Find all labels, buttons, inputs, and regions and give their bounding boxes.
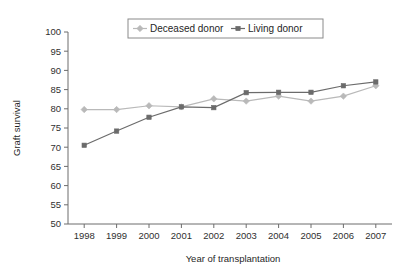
y-tick-label: 90 — [50, 65, 61, 76]
x-tick-label: 2004 — [268, 230, 289, 241]
x-axis-title: Year of transplantation — [186, 253, 281, 264]
legend-label-0: Deceased donor — [150, 23, 224, 34]
y-tick-label: 70 — [50, 142, 61, 153]
y-tick-label: 95 — [50, 46, 61, 57]
data-point-square — [236, 26, 240, 30]
y-tick-label: 75 — [50, 122, 61, 133]
data-point-square — [147, 115, 151, 119]
data-point-square — [276, 90, 280, 94]
y-tick-label: 80 — [50, 103, 61, 114]
chart-legend: Deceased donorLiving donor — [128, 19, 323, 38]
y-tick-label: 100 — [45, 26, 61, 37]
x-tick-label: 2003 — [236, 230, 257, 241]
data-point-square — [179, 105, 183, 109]
legend-label-1: Living donor — [248, 23, 303, 34]
x-tick-label: 2006 — [333, 230, 354, 241]
y-tick-label: 60 — [50, 180, 61, 191]
data-point-square — [374, 80, 378, 84]
x-tick-label: 2002 — [203, 230, 224, 241]
data-point-square — [114, 129, 118, 133]
x-tick-label: 2000 — [138, 230, 159, 241]
chart-canvas: 50556065707580859095100 1998199920002001… — [0, 0, 404, 271]
data-point-square — [212, 105, 216, 109]
data-point-square — [309, 90, 313, 94]
graft-survival-chart: 50556065707580859095100 1998199920002001… — [0, 0, 404, 271]
data-point-square — [244, 90, 248, 94]
x-tick-label: 2001 — [171, 230, 192, 241]
data-point-square — [82, 143, 86, 147]
y-tick-label: 85 — [50, 84, 61, 95]
y-tick-label: 55 — [50, 199, 61, 210]
x-tick-label: 1999 — [106, 230, 127, 241]
y-tick-label: 65 — [50, 161, 61, 172]
x-tick-label: 2005 — [300, 230, 321, 241]
y-axis-title: Graft survival — [11, 100, 22, 156]
x-tick-label: 2007 — [365, 230, 386, 241]
y-tick-label: 50 — [50, 218, 61, 229]
x-tick-label: 1998 — [74, 230, 95, 241]
data-point-square — [341, 84, 345, 88]
